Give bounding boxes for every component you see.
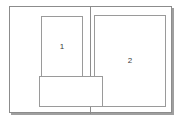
content-box-1-label: 1 (60, 43, 64, 51)
content-box-1[interactable]: 1 (41, 16, 83, 78)
content-box-2[interactable]: 2 (94, 15, 166, 107)
content-box-3[interactable] (39, 76, 103, 107)
layout-canvas: 2 1 (0, 0, 180, 127)
content-box-2-label: 2 (128, 57, 132, 65)
spread-frame[interactable]: 2 1 (9, 6, 172, 113)
